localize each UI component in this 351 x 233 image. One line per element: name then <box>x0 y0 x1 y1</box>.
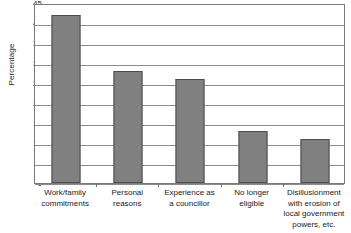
bar-slot <box>35 5 97 183</box>
gridline <box>35 184 344 185</box>
plot-area <box>34 4 345 184</box>
bar-chart: Percentage 454035302520151050 Work/famil… <box>0 0 351 233</box>
x-axis-category-label: No longer eligible <box>217 188 287 209</box>
x-axis-tick-mark <box>221 184 222 187</box>
bar[interactable] <box>176 79 205 183</box>
x-axis-category-label: Experience as a councillor <box>154 188 224 209</box>
bar[interactable] <box>238 131 267 183</box>
bar[interactable] <box>52 15 81 183</box>
y-axis-title: Percentage <box>7 20 16 110</box>
x-axis-tick-mark <box>283 184 284 187</box>
x-axis-category-label: Disillusionment with erosion of local go… <box>279 188 349 230</box>
bar-slot <box>159 5 221 183</box>
bar[interactable] <box>300 139 329 183</box>
bar-slot <box>222 5 284 183</box>
x-axis-category-label: Work/family commitments <box>30 188 100 209</box>
x-axis-tick-mark <box>96 184 97 187</box>
x-axis-tick-mark <box>158 184 159 187</box>
x-axis-category-label: Personal reasons <box>92 188 162 209</box>
bar[interactable] <box>114 71 143 183</box>
bar-slot <box>97 5 159 183</box>
bar-slot <box>284 5 346 183</box>
